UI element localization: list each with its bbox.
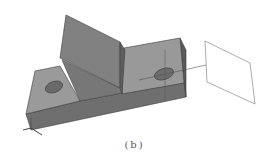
cad-figure	[0, 0, 269, 161]
figure-caption: (b)	[0, 139, 269, 150]
sketch-plane	[205, 41, 255, 104]
